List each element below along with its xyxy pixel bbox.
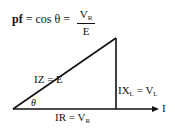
vl-sub: L	[153, 90, 157, 98]
eq-v-text: = V	[134, 84, 153, 96]
hypotenuse-line	[13, 38, 116, 109]
base-label: IR = VR	[55, 111, 90, 125]
vertical-label: IXL = VL	[118, 84, 158, 98]
angle-theta-label: θ	[31, 97, 36, 108]
vr-sub: R	[85, 117, 90, 125]
ir-text: IR = V	[55, 111, 85, 123]
ix-text: IX	[118, 84, 130, 96]
current-arrow-label: I	[162, 102, 166, 114]
arrow-head-icon	[152, 106, 159, 112]
impedance-triangle	[0, 0, 175, 128]
hypotenuse-label: IZ = E	[34, 73, 63, 85]
